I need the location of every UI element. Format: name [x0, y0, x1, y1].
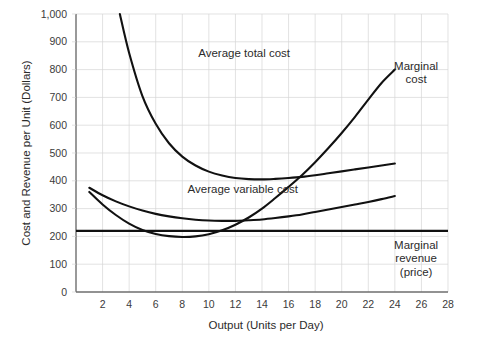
- annotation-label: cost: [406, 73, 428, 85]
- y-tick-label: 400: [49, 174, 67, 186]
- x-axis-title: Output (Units per Day): [208, 319, 323, 331]
- y-tick-label: 700: [49, 91, 67, 103]
- x-tick-label: 14: [256, 298, 268, 310]
- y-tick-label: 200: [49, 230, 67, 242]
- y-tick-label: 300: [49, 202, 67, 214]
- x-tick-label: 2: [100, 298, 106, 310]
- y-tick-label: 600: [49, 119, 67, 131]
- x-tick-label: 16: [283, 298, 295, 310]
- y-tick-label: 800: [49, 63, 67, 75]
- x-tick-label: 24: [389, 298, 401, 310]
- y-tick-label: 0: [61, 286, 67, 298]
- x-tick-label: 12: [230, 298, 242, 310]
- x-tick-label: 18: [309, 298, 321, 310]
- annotation-label: Marginal: [394, 239, 438, 251]
- annotation-label: Marginal: [394, 60, 438, 72]
- chart-container: 246810121416182022242628 010020030040050…: [0, 0, 477, 342]
- x-tick-label: 4: [126, 298, 132, 310]
- y-tick-label: 900: [49, 35, 67, 47]
- x-tick-label: 22: [362, 298, 374, 310]
- x-tick-label: 26: [416, 298, 428, 310]
- cost-revenue-chart: 246810121416182022242628 010020030040050…: [0, 0, 477, 342]
- y-tick-labels: 01002003004005006007008009001,000: [41, 8, 76, 298]
- x-tick-label: 10: [203, 298, 215, 310]
- annotation-label: revenue: [395, 252, 437, 264]
- x-tick-label: 20: [336, 298, 348, 310]
- curve-average-total-cost: [120, 14, 395, 179]
- x-tick-label: 28: [442, 298, 454, 310]
- y-tick-label: 100: [49, 258, 67, 270]
- annotation-label: Average total cost: [198, 47, 291, 59]
- x-tick-label: 6: [153, 298, 159, 310]
- y-axis-title: Cost and Revenue per Unit (Dollars): [20, 60, 32, 246]
- x-tick-label: 8: [179, 298, 185, 310]
- annotation-label: (price): [400, 266, 433, 278]
- y-tick-label: 1,000: [41, 8, 67, 20]
- series-annotations: Average total costAverage variable costM…: [188, 47, 439, 278]
- y-tick-label: 500: [49, 147, 67, 159]
- annotation-label: Average variable cost: [188, 183, 299, 195]
- x-tick-labels: 246810121416182022242628: [100, 298, 454, 310]
